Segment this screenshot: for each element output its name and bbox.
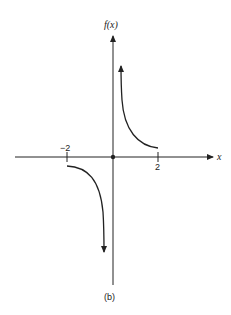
- curve-right-branch: [121, 66, 158, 148]
- y-axis-label: f(x): [104, 19, 118, 30]
- x-tick-label-neg2: −2: [60, 143, 70, 153]
- origin-point: [111, 155, 115, 159]
- figure-caption: (b): [104, 292, 115, 302]
- function-graph: [0, 0, 231, 315]
- curve-left-branch: [67, 166, 104, 252]
- x-axis-label: x: [217, 151, 221, 162]
- x-tick-label-pos2: 2: [155, 162, 160, 172]
